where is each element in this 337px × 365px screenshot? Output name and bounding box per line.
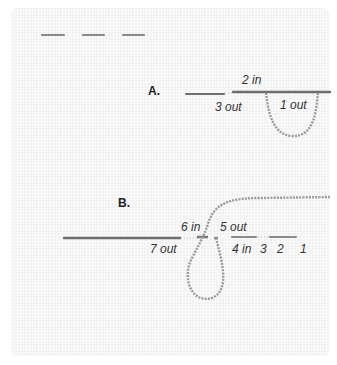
stitch-illustration [0, 0, 337, 365]
point-2-in: 2 in [242, 74, 261, 86]
point-1: 1 [300, 243, 307, 255]
point-1-out: 1 out [280, 99, 307, 111]
point-3-out: 3 out [215, 101, 242, 113]
point-5-out: 5 out [220, 221, 247, 233]
point-6-in: 6 in [181, 221, 200, 233]
thread-loop-b [188, 197, 330, 299]
point-2: 2 [277, 243, 284, 255]
step-b-art [64, 197, 330, 299]
point-7-out: 7 out [150, 243, 177, 255]
point-4-in: 4 in [232, 243, 251, 255]
step-a-label: A. [148, 85, 160, 97]
step-b-label: B. [118, 197, 130, 209]
step-a-art [186, 92, 330, 136]
point-3: 3 [260, 243, 267, 255]
